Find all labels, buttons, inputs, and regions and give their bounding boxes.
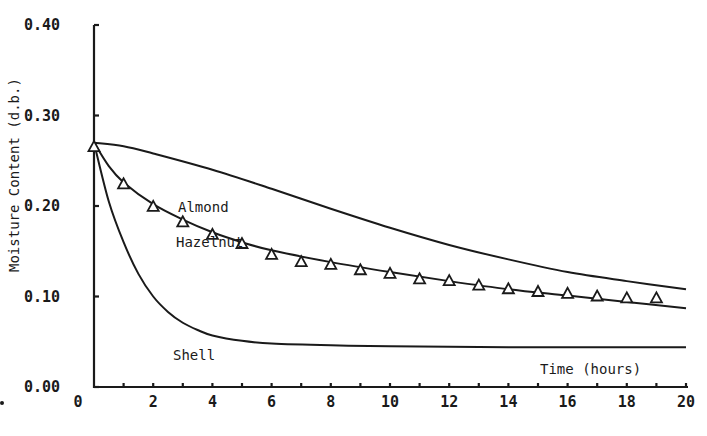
moisture-chart: 0.40 0.30 0.20 0.10 0.00 024681012141618… bbox=[0, 0, 707, 436]
y-tick-label: 0.40 bbox=[24, 16, 60, 34]
triangle-marker bbox=[414, 273, 425, 283]
x-tick-label: 8 bbox=[326, 393, 335, 411]
x-tick-label: 12 bbox=[440, 393, 458, 411]
y-tick-label: 0.10 bbox=[24, 288, 60, 306]
y-tick-label: 0.00 bbox=[24, 378, 60, 396]
label-shell: Shell bbox=[173, 347, 215, 363]
x-tick-label: 18 bbox=[618, 393, 636, 411]
y-tick-label: 0.30 bbox=[24, 107, 60, 125]
x-tick-labels: 02468101214161820 bbox=[73, 393, 695, 411]
x-tick-label: 16 bbox=[559, 393, 577, 411]
x-axis-title: Time (hours) bbox=[540, 361, 641, 377]
triangle-marker bbox=[592, 291, 603, 301]
y-tick-label: 0.20 bbox=[24, 197, 60, 215]
label-almond: Almond bbox=[178, 199, 229, 215]
x-tick-label: 14 bbox=[499, 393, 517, 411]
x-tick-label: 0 bbox=[73, 393, 82, 411]
x-tick-label: 20 bbox=[677, 393, 695, 411]
x-tick-label: 4 bbox=[208, 393, 217, 411]
y-axis-title: Moisture Content (d.b.) bbox=[6, 78, 22, 272]
triangle-marker bbox=[562, 288, 573, 298]
triangle-marker bbox=[651, 292, 662, 302]
triangle-marker bbox=[621, 292, 632, 302]
x-tick-label: 6 bbox=[267, 393, 276, 411]
x-tick-label: 10 bbox=[381, 393, 399, 411]
triangle-marker bbox=[533, 286, 544, 296]
triangle-marker bbox=[325, 259, 336, 269]
experimental-markers bbox=[89, 141, 662, 302]
label-hazelnut: Hazelnut bbox=[176, 234, 243, 250]
y-tick-labels: 0.40 0.30 0.20 0.10 0.00 bbox=[24, 16, 60, 396]
scan-dot bbox=[0, 401, 4, 405]
x-tick-label: 2 bbox=[149, 393, 158, 411]
